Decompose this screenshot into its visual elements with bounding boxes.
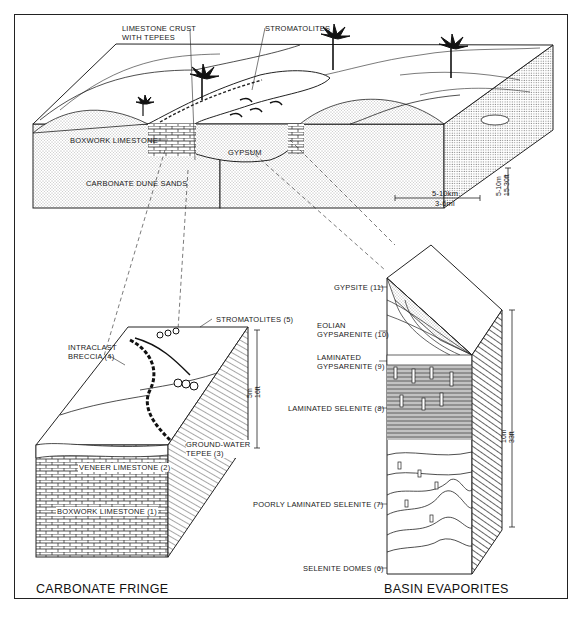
label-stromatolites: STROMATOLITES (265, 24, 330, 33)
label-gypsite: GYPSITE (11) (334, 283, 384, 292)
label-eolian-gypsarenite: EOLIAN GYPSARENITE (10) (317, 321, 389, 339)
scale-16ft: 16ft (254, 386, 261, 398)
label-gypsum: GYPSUM (228, 148, 262, 157)
label-veneer-limestone: VENEER LIMESTONE (2) (78, 463, 171, 472)
label-laminated-gypsarenite: LAMINATED GYPSARENITE (9) (317, 353, 385, 371)
label-laminated-selenite: LAMINATED SELENITE (8) (288, 404, 384, 413)
label-carbonate-dune-sands: CARBONATE DUNE SANDS (86, 179, 187, 188)
title-basin-evaporites: BASIN EVAPORITES (384, 582, 509, 596)
label-groundwater-tepee: GROUND-WATER TEPEE (3) (186, 440, 250, 458)
label-selenite-domes: SELENITE DOMES (6) (303, 564, 384, 573)
scale-10m: 10m (500, 429, 507, 443)
scale-vertical-ft: 15-30ft (503, 174, 510, 196)
scale-horizontal-km: 5-10km (425, 189, 465, 198)
scale-vertical-m: 5-10m (495, 176, 502, 196)
label-stromatolites-5: STROMATOLITES (5) (216, 315, 293, 324)
basin-evaporites-block (387, 245, 502, 574)
label-limestone-crust: LIMESTONE CRUST WITH TEPEES (122, 24, 196, 42)
label-boxwork-limestone: BOXWORK LIMESTONE (70, 136, 158, 145)
diagram-artwork (0, 0, 584, 624)
scale-33ft: 33ft (508, 431, 515, 443)
scale-horizontal-mi: 3-6mi (425, 199, 465, 208)
label-poorly-laminated-selenite: POORLY LAMINATED SELENITE (7) (253, 500, 383, 509)
basin-evaporites-scale (509, 310, 515, 527)
title-carbonate-fringe: CARBONATE FRINGE (36, 582, 168, 596)
label-boxwork-limestone-1: BOXWORK LIMESTONE (1) (56, 507, 158, 516)
label-intraclast-breccia: INTRACLAST BRECCIA (4) (68, 343, 117, 361)
scale-5m: 5m (246, 388, 253, 398)
